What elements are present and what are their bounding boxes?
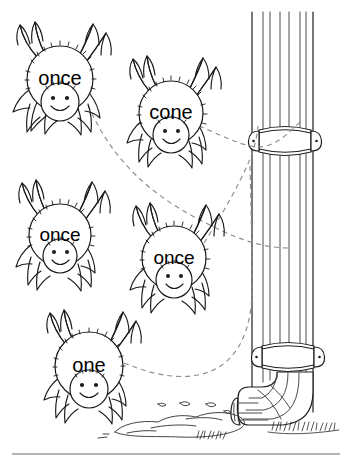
spider-1-leg-ul-1 (17, 25, 38, 58)
spider-4-leg-ul-2b (150, 203, 159, 233)
spider-5-leg-ll-2 (56, 390, 69, 418)
puddle-splash-left (98, 434, 109, 438)
spider-2-word: cone (149, 101, 192, 123)
footer-divider-rule (12, 453, 340, 455)
bracket-lower (251, 343, 324, 372)
spider-5-word: one (72, 354, 105, 376)
spider-5-leg-ul-1 (47, 313, 67, 346)
spider-3-leg-ll-2 (28, 257, 41, 285)
spider-3-eye-left (52, 250, 56, 254)
illustration-canvas: once cone (0, 0, 351, 464)
spider-2-leg-ll-2 (139, 134, 152, 162)
spider-2-eye-right (176, 129, 180, 133)
spider-1-eye-left (51, 96, 55, 100)
spider-3: once (16, 180, 110, 291)
pipe-elbow (231, 372, 313, 425)
spider-1-word: once (38, 67, 81, 89)
bracket-upper-right-screw (315, 140, 318, 143)
spider-2-eye-left (163, 129, 167, 133)
water-droplet-2 (180, 402, 190, 406)
bracket-upper-left-screw (252, 140, 255, 143)
puddle-ripple-1 (151, 425, 196, 428)
spider-3-leg-ul-1 (19, 183, 39, 216)
spider-4-eye-right (179, 274, 183, 278)
water-droplet-1 (158, 403, 166, 406)
bracket-upper (248, 127, 321, 156)
spider-3-leg-ul-2b (36, 180, 45, 210)
spider-4-word: once (153, 247, 194, 268)
ground-line-right (268, 430, 339, 434)
spider-1: once (13, 22, 111, 135)
spider-5-eye-left (80, 383, 84, 387)
bracket-lower-right-screw (318, 356, 321, 359)
spider-1-leg-ul-2b (35, 22, 44, 52)
water-droplet-3 (206, 403, 216, 407)
spider-4-eye-left (166, 274, 170, 278)
spider-5-leg-ul-2b (64, 310, 73, 340)
spider-3-leg-ul-1b (22, 183, 39, 216)
spider-4-leg-ll-2 (142, 280, 155, 308)
spider-1-leg-ul-1b (20, 25, 38, 58)
spider-2-leg-ul-1 (130, 59, 150, 92)
spider-5-eye-right (94, 383, 98, 387)
puddle-ripple-3 (127, 431, 156, 433)
spider-4-leg-ul-1 (133, 206, 153, 239)
spider-3-word: once (39, 224, 80, 245)
spider-1-eye-right (65, 96, 69, 100)
worksheet-page: once cone (0, 0, 351, 464)
spider-5: one (44, 310, 141, 424)
web-strand-4 (124, 288, 252, 377)
spider-3-eye-right (65, 250, 69, 254)
spider-2: cone (127, 56, 221, 168)
spider-4: once (130, 203, 224, 314)
bracket-lower-left-screw (255, 356, 258, 359)
spider-2-leg-ul-2b (147, 56, 156, 86)
spider-5-leg-ul-1b (50, 313, 67, 346)
spider-4-leg-ul-1b (136, 206, 153, 239)
puddle-ripple-2 (186, 418, 222, 420)
drainpipe (231, 12, 325, 425)
spider-2-leg-ul-1b (133, 59, 150, 92)
